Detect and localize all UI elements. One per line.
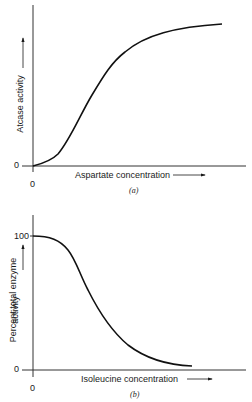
x-axis-label-a: Aspartate concentration <box>75 170 170 180</box>
panel-a <box>22 5 246 175</box>
x-zero-label-b: 0 <box>30 383 35 393</box>
chart-canvas <box>0 0 252 402</box>
y-axis-label-a: Atcase activity <box>15 64 25 144</box>
y-axis-label-b-line2: activity <box>10 280 20 340</box>
x-zero-label-a: 0 <box>30 179 35 189</box>
caption-b: (b) <box>130 390 139 399</box>
x-axis-label-b: Isoleucine concentration <box>81 374 178 384</box>
y-zero-label-a: 0 <box>14 160 19 170</box>
y-max-label-b: 100 <box>14 231 29 241</box>
curve-a <box>33 24 222 166</box>
curve-b <box>33 236 192 366</box>
panel-b <box>22 215 246 379</box>
y-zero-label-b: 0 <box>14 364 19 374</box>
caption-a: (a) <box>129 186 138 195</box>
